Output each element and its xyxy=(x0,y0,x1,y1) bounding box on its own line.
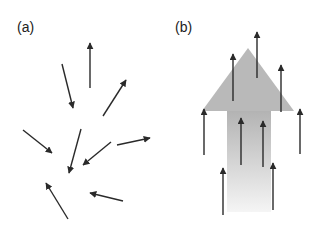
diagram-canvas xyxy=(0,0,320,238)
random-arrow-icon xyxy=(69,129,81,173)
random-arrow-icon xyxy=(23,130,52,153)
big-arrow-head xyxy=(202,48,294,111)
random-arrow-icon xyxy=(46,183,68,219)
random-arrow-icon xyxy=(62,64,73,108)
panel-a-random-arrows xyxy=(23,43,150,219)
big-upward-arrow xyxy=(202,48,294,212)
random-arrow-icon xyxy=(90,193,123,201)
random-arrow-icon xyxy=(117,138,150,145)
random-arrow-icon xyxy=(103,80,126,116)
random-arrow-icon xyxy=(83,142,111,165)
big-arrow-shaft xyxy=(227,111,271,212)
